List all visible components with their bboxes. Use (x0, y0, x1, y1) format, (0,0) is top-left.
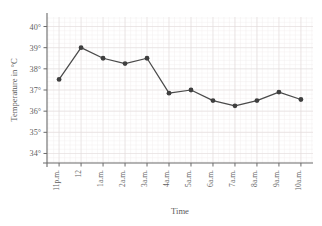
x-tick-label: 3a.m. (140, 170, 149, 187)
data-point (211, 98, 216, 103)
x-tick-label: 2a.m. (118, 170, 127, 187)
data-point (233, 103, 238, 108)
data-point (145, 56, 150, 61)
x-tick-label: 1a.m. (96, 170, 105, 187)
y-tick-label: 34° (30, 149, 41, 158)
x-tick-label: 4a.m. (162, 170, 171, 187)
y-axis-title: Temperature in °C (9, 58, 19, 122)
x-tick-label: 7a.m. (228, 170, 237, 187)
data-point (101, 56, 106, 61)
x-tick-label: 10a.m. (294, 170, 303, 191)
y-tick-label: 40° (30, 23, 41, 32)
x-tick-label: 11p.m. (52, 170, 61, 191)
y-tick-label: 38° (30, 65, 41, 74)
y-tick-label: 35° (30, 128, 41, 137)
data-point (167, 91, 172, 96)
chart-canvas: 34°35°36°37°38°39°40° 11p.m.121a.m.2a.m.… (0, 0, 322, 226)
y-tick-label: 37° (30, 86, 41, 95)
x-tick-label: 12 (74, 170, 83, 178)
x-tick-label: 9a.m. (272, 170, 281, 187)
data-point (189, 88, 194, 93)
data-point (299, 97, 304, 102)
x-tick-label: 8a.m. (250, 170, 259, 187)
x-tick-label: 6a.m. (206, 170, 215, 187)
data-point (277, 90, 282, 95)
data-point (123, 61, 128, 66)
y-tick-label: 39° (30, 44, 41, 53)
data-point (79, 45, 84, 50)
data-point (57, 77, 62, 82)
y-tick-label: 36° (30, 107, 41, 116)
x-tick-label: 5a.m. (184, 170, 193, 187)
data-point (255, 98, 260, 103)
temperature-line-chart: 34°35°36°37°38°39°40° 11p.m.121a.m.2a.m.… (0, 0, 322, 226)
x-axis-title: Time (171, 206, 189, 216)
